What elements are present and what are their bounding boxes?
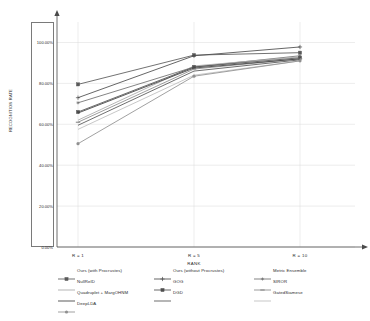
legend-swatch-icon bbox=[254, 290, 271, 296]
legend-item[interactable]: SIROR bbox=[254, 279, 287, 285]
legend-swatch-icon bbox=[58, 301, 75, 307]
legend-swatch-icon bbox=[154, 279, 171, 285]
legend-label: Metric Ensemble bbox=[273, 269, 307, 273]
legend-item[interactable]: GOG bbox=[154, 279, 183, 285]
legend-swatch-icon bbox=[58, 290, 75, 296]
legend-item[interactable]: NullReID bbox=[58, 279, 95, 285]
legend-swatch-icon bbox=[154, 268, 171, 274]
series-line bbox=[78, 57, 300, 120]
legend-item[interactable]: Ours (with Procrustes) bbox=[58, 268, 122, 274]
legend-label: DeepLDA bbox=[77, 302, 96, 306]
legend-item[interactable]: DeepLDA bbox=[58, 301, 96, 307]
legend-label: Ours (without Procrustes) bbox=[173, 269, 224, 273]
legend-item[interactable]: Quadruplet + MargOHNM bbox=[58, 290, 128, 296]
legend-label: GatedSiamese bbox=[273, 291, 303, 295]
x-axis-title: RANK bbox=[187, 261, 200, 266]
legend-item[interactable]: DGD bbox=[154, 290, 183, 296]
legend-swatch-icon bbox=[58, 268, 75, 274]
legend-label: Quadruplet + MargOHNM bbox=[77, 291, 128, 295]
legend-label: GOG bbox=[173, 280, 183, 284]
legend-item[interactable]: Metric Ensemble bbox=[254, 268, 307, 274]
chart-legend: Ours (with Procrustes)Ours (without Proc… bbox=[58, 268, 358, 312]
legend-label: SIROR bbox=[273, 280, 287, 284]
legend-item[interactable]: GatedSiamese bbox=[254, 290, 303, 296]
legend-swatch-icon bbox=[254, 268, 271, 274]
legend-swatch-icon bbox=[154, 290, 171, 296]
legend-label: Ours (with Procrustes) bbox=[77, 269, 122, 273]
series-line bbox=[76, 59, 301, 145]
legend-item[interactable]: Ours (without Procrustes) bbox=[154, 268, 224, 274]
legend-swatch-icon bbox=[254, 279, 271, 285]
legend-label: NullReID bbox=[77, 280, 95, 284]
legend-swatch-icon bbox=[58, 279, 75, 285]
legend-label: DGD bbox=[173, 291, 183, 295]
chart-figure: RECOGNITION RATE 0.00%20.00%40.00%60.00%… bbox=[0, 0, 370, 321]
